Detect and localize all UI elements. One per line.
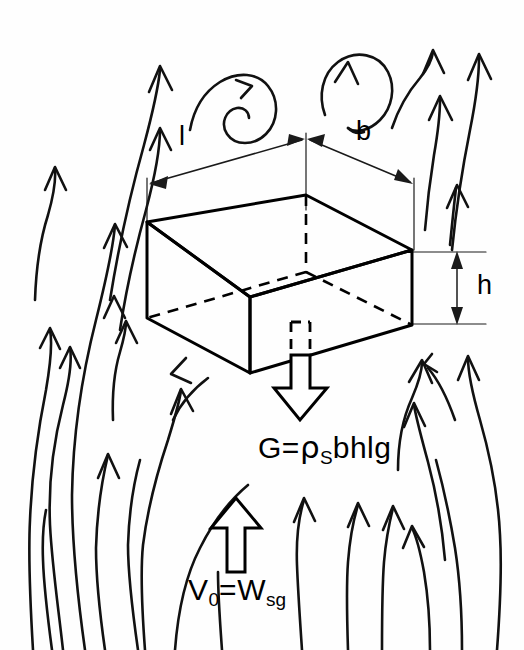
streamline-19 [468,358,501,650]
streamline-6-arrowhead [98,454,119,478]
buoyancy-formula-lhs: V [188,573,209,606]
block-hidden-edge-right [306,272,412,325]
buoyancy-formula-rhs-subscript: sg [266,589,286,610]
streamline-11-arrowhead [116,321,137,343]
streamline-16 [452,58,479,250]
dim-arrowhead-h-bottom [451,307,463,325]
diagram-canvas [0,0,524,650]
dim-arrowhead-l-right [287,134,305,146]
streamline-1 [29,330,51,650]
dimension-label-height: h [477,272,492,299]
vortex-left-arrowhead [236,80,252,98]
weight-formula-rho: ρ [300,429,320,465]
block-top-face [147,195,412,297]
streamline-13-arrowhead [149,66,172,92]
block-solid [147,195,412,373]
flow-field-left [29,66,248,650]
dimension-label-length: l [179,123,185,150]
block-front-left-face [147,222,250,373]
streamline-18 [425,100,440,230]
streamline-23 [428,368,455,420]
weight-formula-terms: bhlg [333,431,392,464]
buoyancy-arrow-group [211,498,261,572]
dimension-annotations [147,133,486,325]
buoyancy-formula-equals: = [219,573,237,606]
weight-formula-equals: = [282,431,300,464]
dim-arrowhead-b-right [394,169,413,184]
dimension-label-width: b [356,118,371,145]
streamline-24-arrowhead [294,498,315,522]
streamline-27-arrowhead [403,526,424,548]
streamline-26-arrowhead [383,506,404,530]
block-front-right-face [250,250,412,373]
streamline-2 [50,348,71,650]
buoyancy-flow-diagram: l b h G=ρSbhlg V0=Wsg [0,0,524,650]
dim-line-length [151,140,302,183]
weight-formula-rho-subscript: S [320,447,333,468]
streamline-10-arrowhead [171,358,191,383]
buoyancy-formula-lhs-subscript: 0 [209,589,220,610]
streamline-27 [412,528,430,650]
dim-line-width [310,140,410,182]
weight-formula: G=ρSbhlg [258,432,391,467]
streamline-8-arrowhead [171,389,193,414]
buoyancy-arrow-body [211,498,261,572]
streamline-8 [142,390,181,650]
vortex-right-arrowhead [335,62,358,84]
streamline-20 [436,460,462,650]
vortex-left-spiral [190,75,276,143]
buoyancy-formula: V0=Wsg [188,575,286,609]
weight-arrow-hidden-shaft [291,322,310,355]
streamline-7 [128,460,140,650]
streamline-6 [96,455,108,650]
weight-formula-lhs: G [258,431,282,464]
weight-arrow-group [274,322,327,420]
dim-arrowhead-h-top [451,251,463,269]
streamline-5 [72,225,115,650]
flow-field-right [392,50,501,650]
streamline-25-arrowhead [348,503,369,527]
buoyancy-formula-rhs: W [237,573,266,606]
streamline-24 [297,500,304,650]
